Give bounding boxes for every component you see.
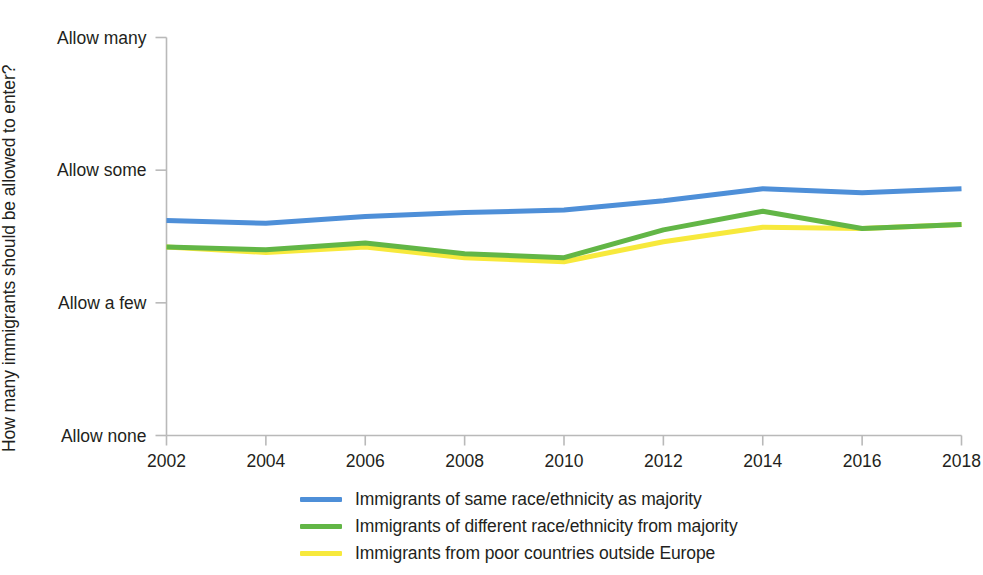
x-tick-label: 2012 [644, 451, 683, 471]
legend-swatch-green [300, 524, 342, 529]
legend-label: Immigrants of different race/ethnicity f… [355, 516, 738, 537]
x-tick-label: 2014 [743, 451, 782, 471]
series-line [167, 189, 962, 224]
plot-area: Allow manyAllow someAllow a fewAllow non… [0, 0, 983, 480]
x-axis: 200220042006200820102012201420162018 [147, 436, 981, 471]
line-chart: How many immigrants should be allowed to… [0, 0, 983, 575]
y-tick-label: Allow none [61, 426, 147, 446]
x-tick-label: 2010 [545, 451, 584, 471]
legend: Immigrants of same race/ethnicity as maj… [300, 486, 920, 567]
x-tick-label: 2006 [346, 451, 385, 471]
y-tick-label: Allow some [57, 160, 146, 180]
legend-label: Immigrants from poor countries outside E… [355, 543, 715, 564]
y-tick-label: Allow many [57, 28, 147, 48]
x-tick-label: 2004 [246, 451, 285, 471]
legend-item[interactable]: Immigrants of different race/ethnicity f… [300, 513, 920, 540]
y-axis: Allow manyAllow someAllow a fewAllow non… [57, 28, 166, 446]
legend-item[interactable]: Immigrants of same race/ethnicity as maj… [300, 486, 920, 513]
legend-swatch-blue [300, 497, 342, 502]
series-layer [167, 189, 962, 262]
x-tick-label: 2008 [445, 451, 484, 471]
legend-label: Immigrants of same race/ethnicity as maj… [355, 489, 702, 510]
x-tick-label: 2002 [147, 451, 186, 471]
legend-item[interactable]: Immigrants from poor countries outside E… [300, 540, 920, 567]
x-tick-label: 2016 [843, 451, 882, 471]
x-tick-label: 2018 [942, 451, 981, 471]
series-line [167, 211, 962, 257]
legend-swatch-yellow [300, 551, 342, 556]
y-tick-label: Allow a few [58, 293, 147, 313]
